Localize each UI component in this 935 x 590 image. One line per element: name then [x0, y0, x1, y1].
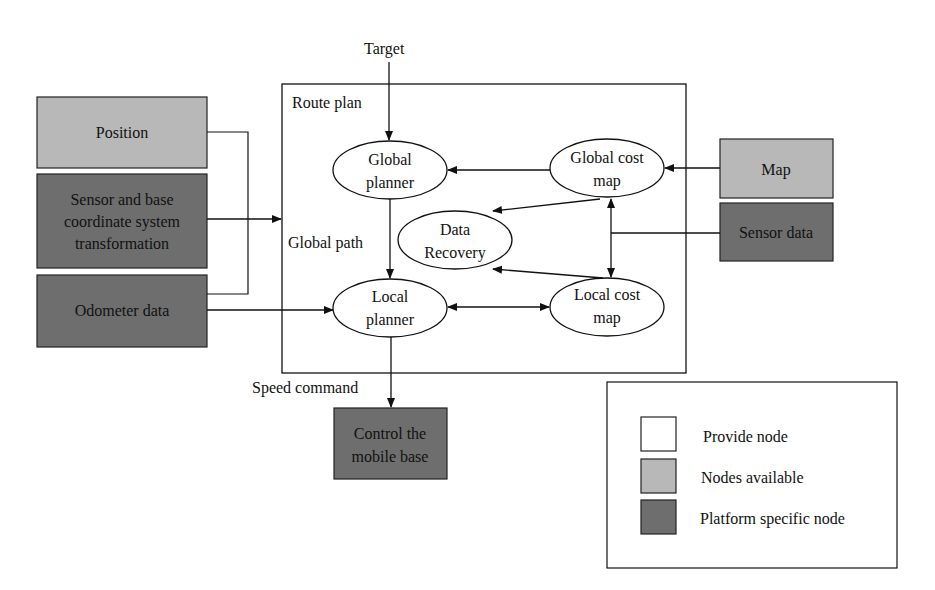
control-mobile-base-node: Control the mobile base	[334, 408, 447, 479]
svg-text:planner: planner	[366, 311, 415, 329]
global-planner-node: Global planner	[333, 141, 447, 199]
svg-text:Map: Map	[761, 161, 790, 179]
route-plan-label: Route plan	[292, 94, 362, 112]
global-costmap-to-recovery-arrow	[493, 199, 600, 211]
local-planner-node: Local planner	[333, 279, 447, 337]
map-node: Map	[720, 139, 833, 198]
local-cost-map-node: Local cost map	[550, 278, 664, 336]
svg-text:Data: Data	[440, 221, 470, 238]
global-cost-map-node: Global cost map	[550, 139, 664, 197]
local-costmap-to-recovery-arrow	[493, 269, 603, 278]
svg-text:Local cost: Local cost	[574, 286, 641, 303]
svg-text:mobile base: mobile base	[352, 448, 429, 465]
svg-text:Local: Local	[372, 288, 409, 305]
svg-text:Global: Global	[368, 151, 412, 168]
position-connector	[207, 132, 248, 294]
svg-text:map: map	[593, 172, 621, 190]
legend: Provide node Nodes available Platform sp…	[607, 382, 897, 568]
svg-text:map: map	[593, 309, 621, 327]
svg-text:Recovery: Recovery	[424, 244, 485, 262]
svg-text:Nodes available: Nodes available	[701, 469, 804, 486]
navigation-diagram: Route plan Target Position Sensor and ba…	[0, 0, 935, 590]
diagram-canvas: Route plan Target Position Sensor and ba…	[0, 0, 935, 590]
sensor-transform-node: Sensor and base coordinate system transf…	[37, 174, 207, 268]
svg-text:planner: planner	[366, 174, 415, 192]
svg-text:Global cost: Global cost	[570, 149, 644, 166]
data-recovery-node: Data Recovery	[398, 211, 512, 269]
sensor-data-node: Sensor data	[720, 203, 833, 261]
global-path-label: Global path	[288, 234, 363, 252]
speed-command-label: Speed command	[252, 379, 358, 397]
svg-text:transformation: transformation	[75, 235, 169, 252]
svg-text:Platform specific node: Platform specific node	[700, 510, 845, 528]
svg-text:Position: Position	[96, 124, 148, 141]
odometer-node: Odometer data	[37, 275, 207, 347]
position-node: Position	[37, 97, 207, 168]
svg-text:Sensor data: Sensor data	[739, 224, 813, 241]
target-label: Target	[364, 40, 405, 58]
svg-text:Provide node: Provide node	[703, 428, 788, 445]
svg-text:coordinate system: coordinate system	[64, 213, 181, 231]
svg-text:Sensor and base: Sensor and base	[70, 191, 173, 208]
svg-text:Control the: Control the	[354, 425, 426, 442]
svg-text:Odometer data: Odometer data	[75, 302, 170, 319]
